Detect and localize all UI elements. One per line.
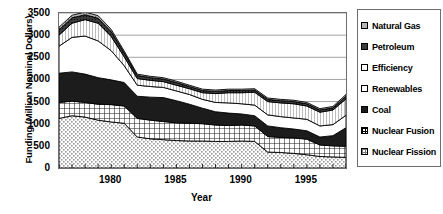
y-tick-1500: 1500 <box>28 95 50 106</box>
x-tick-1990: 1990 <box>230 174 252 185</box>
legend-label-renewables: Renewables <box>372 84 422 94</box>
y-axis-tick-labels: 0500100015002000250030003500 <box>0 0 54 214</box>
y-tick-3500: 3500 <box>28 7 50 18</box>
legend-swatch-nuclear-fusion <box>361 127 368 134</box>
legend-item-nuclear-fusion[interactable]: Nuclear Fusion <box>361 120 440 141</box>
y-tick-0: 0 <box>44 162 50 173</box>
x-tick-1995: 1995 <box>295 174 317 185</box>
legend-label-nuclear-fusion: Nuclear Fusion <box>372 126 434 136</box>
stacked-area-svg <box>59 13 346 168</box>
legend-label-coal: Coal <box>372 105 391 115</box>
legend-item-natural-gas[interactable]: Natural Gas <box>361 15 440 36</box>
legend-swatch-coal <box>361 106 368 113</box>
legend-item-renewables[interactable]: Renewables <box>361 78 440 99</box>
legend-label-natural-gas: Natural Gas <box>372 21 420 31</box>
legend-swatch-natural-gas <box>361 22 368 29</box>
legend-item-coal[interactable]: Coal <box>361 99 440 120</box>
legend-item-efficiency[interactable]: Efficiency <box>361 57 440 78</box>
legend-label-nuclear-fission: Nuclear Fission <box>372 147 436 157</box>
x-tick-1985: 1985 <box>164 174 186 185</box>
legend-item-petroleum[interactable]: Petroleum <box>361 36 440 57</box>
x-axis-title: Year <box>58 192 345 203</box>
y-tick-3000: 3000 <box>28 29 50 40</box>
legend-label-petroleum: Petroleum <box>372 42 414 52</box>
plot-area <box>58 12 347 169</box>
chart-legend: Natural Gas Petroleum Efficiency Renewab… <box>357 9 441 167</box>
x-tick-1980: 1980 <box>99 174 121 185</box>
y-tick-500: 500 <box>33 139 50 150</box>
chart-page: Funding (Million Nominal Dollars) 050010… <box>0 0 443 214</box>
legend-swatch-petroleum <box>361 43 368 50</box>
legend-swatch-nuclear-fission <box>361 148 368 155</box>
legend-swatch-efficiency <box>361 64 368 71</box>
legend-swatch-renewables <box>361 85 368 92</box>
y-tick-2000: 2000 <box>28 73 50 84</box>
legend-label-efficiency: Efficiency <box>372 63 413 73</box>
legend-item-nuclear-fission[interactable]: Nuclear Fission <box>361 141 440 162</box>
area-series-group <box>59 13 346 168</box>
y-tick-2500: 2500 <box>28 51 50 62</box>
y-tick-1000: 1000 <box>28 117 50 128</box>
